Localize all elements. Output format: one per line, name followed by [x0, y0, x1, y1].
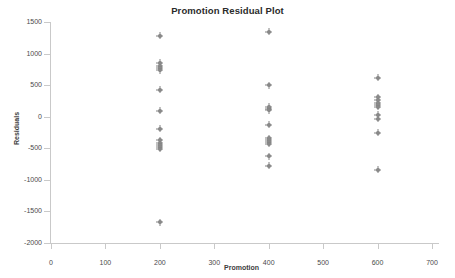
y-axis-tick: [44, 211, 50, 212]
data-point-marker: [158, 109, 162, 113]
y-axis-tick-label: -1500: [2, 207, 42, 214]
y-axis-tick-label-wrap: -1000: [0, 176, 42, 177]
y-axis-tick-label: -1000: [2, 176, 42, 183]
y-axis-tick-label: -500: [2, 144, 42, 151]
y-axis-tick-label: 500: [2, 81, 42, 88]
data-point-marker: [376, 131, 380, 135]
x-axis-tick: [269, 244, 270, 249]
data-point-marker: [267, 164, 271, 168]
data-point-marker: [267, 123, 271, 127]
data-point-marker: [158, 88, 162, 92]
y-axis-tick-label: -2000: [2, 239, 42, 246]
data-point-marker: [376, 105, 380, 109]
data-point-marker: [158, 34, 162, 38]
y-axis-tick: [44, 117, 50, 118]
data-point-marker: [158, 220, 162, 224]
data-point-marker: [158, 127, 162, 131]
y-axis-title: Residuals: [13, 99, 20, 159]
y-axis-tick-label: 1500: [2, 18, 42, 25]
y-axis-tick: [44, 180, 50, 181]
y-axis-tick-label-wrap: -500: [0, 144, 42, 145]
y-axis-tick-label: 1000: [2, 50, 42, 57]
y-axis-tick: [44, 85, 50, 86]
x-axis-tick: [105, 244, 106, 249]
y-axis-tick-label-wrap: 500: [0, 81, 42, 82]
y-axis-tick-label: 0: [2, 113, 42, 120]
residual-scatter-chart: Promotion Residual Plot 150010005000-500…: [0, 0, 455, 278]
y-axis-tick-label-wrap: -2000: [0, 239, 42, 240]
y-axis-tick-label-wrap: 1500: [0, 18, 42, 19]
x-axis-tick: [323, 244, 324, 249]
data-point-marker: [376, 117, 380, 121]
y-axis-tick: [44, 22, 50, 23]
data-point-marker: [267, 142, 271, 146]
chart-title: Promotion Residual Plot: [0, 5, 455, 16]
data-point-marker: [267, 30, 271, 34]
x-axis-title: Promotion: [51, 264, 432, 271]
data-point-marker: [376, 168, 380, 172]
y-axis-tick-label-wrap: -1500: [0, 207, 42, 208]
x-axis-tick: [378, 244, 379, 249]
y-axis-tick: [44, 243, 50, 244]
y-axis-tick: [44, 54, 50, 55]
y-axis-tick-label-wrap: 0: [0, 113, 42, 114]
y-axis-tick-label-wrap: 1000: [0, 50, 42, 51]
data-point-marker: [158, 147, 162, 151]
data-point-marker: [376, 76, 380, 80]
x-axis-line: [44, 243, 439, 244]
data-point-marker: [267, 154, 271, 158]
x-axis-tick: [432, 244, 433, 249]
x-axis-tick: [160, 244, 161, 249]
y-axis-tick: [44, 148, 50, 149]
x-axis-tick: [51, 244, 52, 249]
x-axis-tick: [214, 244, 215, 249]
